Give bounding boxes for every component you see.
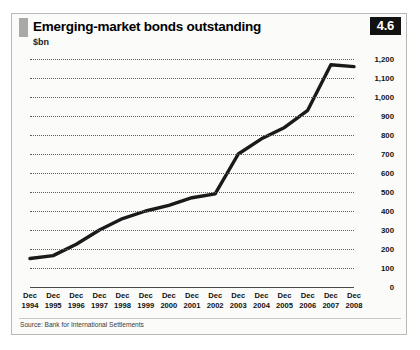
y-axis-tick-label: 700 xyxy=(360,150,394,159)
x-axis-tick-label: Dec2005 xyxy=(276,291,293,310)
x-axis: Dec1994Dec1995Dec1996Dec1997Dec1998Dec19… xyxy=(30,291,354,317)
y-axis-tick-label: 0 xyxy=(360,283,394,292)
x-axis-tick-line: 2003 xyxy=(230,301,247,311)
chart-title: Emerging-market bonds outstanding xyxy=(33,19,261,34)
gridline xyxy=(30,173,354,174)
figure-number-badge: 4.6 xyxy=(370,17,401,35)
x-axis-tick-line: Dec xyxy=(322,291,339,301)
x-axis-tick-line: Dec xyxy=(346,291,363,301)
x-axis-tick-label: Dec2004 xyxy=(253,291,270,310)
x-axis-tick-line: 2005 xyxy=(276,301,293,311)
plot-area: 01002003004005006007008009001,0001,1001,… xyxy=(30,59,354,287)
chart-units-label: $bn xyxy=(33,37,49,47)
x-axis-tick-label: Dec2007 xyxy=(322,291,339,310)
y-axis-tick-label: 400 xyxy=(360,207,394,216)
x-axis-tick-line: Dec xyxy=(230,291,247,301)
y-axis-tick-label: 800 xyxy=(360,131,394,140)
gridline xyxy=(30,116,354,117)
x-axis-tick-label: Dec2000 xyxy=(160,291,177,310)
x-axis-tick-line: 2002 xyxy=(207,301,224,311)
x-axis-tick-line: 1997 xyxy=(91,301,108,311)
x-axis-tick-line: Dec xyxy=(45,291,62,301)
x-axis-tick-label: Dec1997 xyxy=(91,291,108,310)
x-axis-tick-label: Dec1995 xyxy=(45,291,62,310)
x-axis-tick-line: 2001 xyxy=(184,301,201,311)
x-axis-tick-label: Dec1996 xyxy=(68,291,85,310)
x-axis-tick-line: 1995 xyxy=(45,301,62,311)
y-axis-tick-label: 300 xyxy=(360,226,394,235)
y-axis-tick-label: 1,200 xyxy=(360,55,394,64)
gridline xyxy=(30,135,354,136)
gridline xyxy=(30,59,354,60)
title-accent-tab xyxy=(19,18,28,37)
x-axis-tick-line: 2007 xyxy=(322,301,339,311)
gridline xyxy=(30,268,354,269)
gridline xyxy=(30,78,354,79)
y-axis-tick-label: 500 xyxy=(360,188,394,197)
x-axis-tick-label: Dec2003 xyxy=(230,291,247,310)
x-axis-tick-line: 2004 xyxy=(253,301,270,311)
x-axis-tick-line: Dec xyxy=(299,291,316,301)
y-axis-tick-label: 100 xyxy=(360,264,394,273)
x-axis-tick-label: Dec1994 xyxy=(22,291,39,310)
y-axis-tick-label: 200 xyxy=(360,245,394,254)
x-axis-tick-line: Dec xyxy=(137,291,154,301)
y-axis-tick-label: 600 xyxy=(360,169,394,178)
x-axis-tick-label: Dec2001 xyxy=(184,291,201,310)
x-axis-tick-line: 1996 xyxy=(68,301,85,311)
x-axis-tick-label: Dec1998 xyxy=(114,291,131,310)
x-axis-tick-label: Dec1999 xyxy=(137,291,154,310)
axis-baseline xyxy=(30,287,354,288)
gridline xyxy=(30,211,354,212)
x-axis-tick-line: Dec xyxy=(276,291,293,301)
x-axis-tick-line: 2006 xyxy=(299,301,316,311)
x-axis-tick-line: 2008 xyxy=(346,301,363,311)
x-axis-tick-line: Dec xyxy=(22,291,39,301)
x-axis-tick-line: 1999 xyxy=(137,301,154,311)
x-axis-tick-line: Dec xyxy=(160,291,177,301)
gridline xyxy=(30,249,354,250)
y-axis-tick-label: 900 xyxy=(360,112,394,121)
x-axis-tick-line: 1994 xyxy=(22,301,39,311)
chart-header: Emerging-market bonds outstanding $bn 4.… xyxy=(12,14,406,56)
gridline xyxy=(30,97,354,98)
x-axis-tick-line: Dec xyxy=(184,291,201,301)
x-axis-tick-line: Dec xyxy=(114,291,131,301)
y-axis-tick-label: 1,100 xyxy=(360,74,394,83)
x-axis-tick-line: Dec xyxy=(68,291,85,301)
x-axis-tick-label: Dec2006 xyxy=(299,291,316,310)
x-axis-tick-line: 1998 xyxy=(114,301,131,311)
x-axis-tick-line: Dec xyxy=(91,291,108,301)
source-note: Source: Bank for International Settlemen… xyxy=(20,321,144,328)
x-axis-tick-line: 2000 xyxy=(160,301,177,311)
source-divider xyxy=(19,318,401,319)
gridline xyxy=(30,154,354,155)
y-axis-tick-label: 1,000 xyxy=(360,93,394,102)
gridline xyxy=(30,192,354,193)
x-axis-tick-line: Dec xyxy=(253,291,270,301)
x-axis-tick-label: Dec2008 xyxy=(346,291,363,310)
chart-figure: Emerging-market bonds outstanding $bn 4.… xyxy=(11,13,407,335)
x-axis-tick-line: Dec xyxy=(207,291,224,301)
gridline xyxy=(30,230,354,231)
x-axis-tick-label: Dec2002 xyxy=(207,291,224,310)
